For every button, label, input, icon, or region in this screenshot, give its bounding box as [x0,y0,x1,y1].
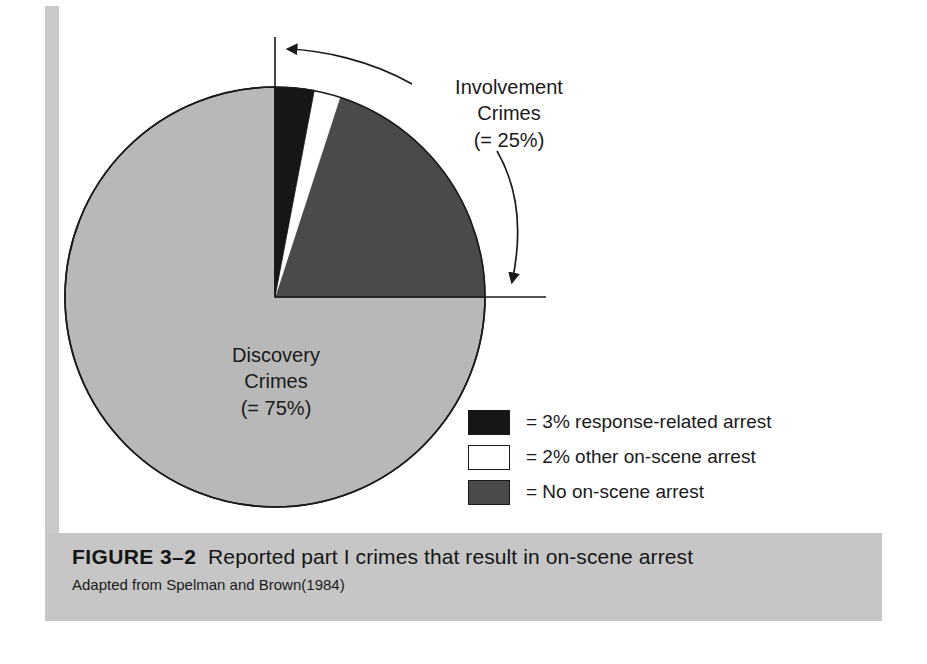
legend-label-other-on-scene-arrest: = 2% other on-scene arrest [526,446,756,468]
caption-main-line: FIGURE 3–2 Reported part I crimes that r… [72,545,872,569]
legend-swatch-dark-gray [468,480,510,505]
figure-caption: FIGURE 3–2 Reported part I crimes that r… [72,545,872,593]
figure-page: Involvement Crimes (= 25%) Discovery Cri… [0,0,927,664]
legend-item-response-related-arrest: = 3% response-related arrest [468,407,868,437]
legend-item-other-on-scene-arrest: = 2% other on-scene arrest [468,442,868,472]
sweep-arrow-head-bottom [497,151,518,282]
figure-number: FIGURE 3–2 [72,545,196,568]
legend-swatch-white [468,445,510,470]
sweep-arrow-head-top [288,49,412,84]
figure-title: Reported part I crimes that result in on… [208,545,693,568]
figure-source-note: Adapted from Spelman and Brown(1984) [72,576,872,593]
legend-item-no-on-scene-arrest: = No on-scene arrest [468,477,868,507]
involvement-crimes-label: Involvement Crimes (= 25%) [404,74,614,153]
legend-label-response-related-arrest: = 3% response-related arrest [526,411,772,433]
discovery-crimes-label: Discovery Crimes (= 75%) [168,342,384,421]
legend-label-no-on-scene-arrest: = No on-scene arrest [526,481,704,503]
chart-legend: = 3% response-related arrest = 2% other … [468,407,868,512]
legend-swatch-black [468,410,510,435]
